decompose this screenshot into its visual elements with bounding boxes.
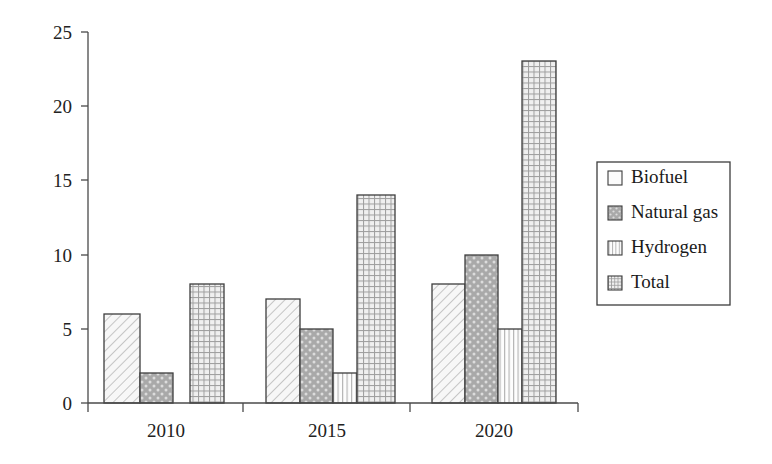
x-tick-label-2010: 2010: [147, 420, 185, 441]
legend-label-total: Total: [631, 271, 670, 292]
x-tick-label-2020: 2020: [475, 420, 513, 441]
bar-2010-biofuel: [104, 314, 140, 403]
bar-group-2020: [432, 61, 556, 403]
bar-2010-natural-gas: [140, 373, 173, 403]
y-tick-label-10: 10: [53, 245, 72, 266]
bar-2020-biofuel: [432, 284, 465, 403]
legend-swatch-natural-gas-icon: [608, 206, 622, 220]
bar-chart: 25 20 15 10 5 0: [0, 0, 772, 464]
chart-canvas: 25 20 15 10 5 0: [0, 0, 772, 464]
bar-2015-total: [357, 195, 395, 403]
bar-2020-natural-gas: [465, 255, 498, 403]
y-tick-label-25: 25: [53, 22, 72, 43]
legend-swatch-biofuel-icon: [608, 171, 622, 185]
bar-2015-biofuel: [266, 299, 300, 403]
legend-swatch-total-icon: [608, 276, 622, 290]
x-tick-label-2015: 2015: [308, 420, 346, 441]
legend-swatch-hydrogen-icon: [608, 241, 622, 255]
bar-group-2010: [104, 284, 224, 403]
bar-2015-natural-gas: [300, 329, 333, 403]
y-tick-label-5: 5: [63, 319, 73, 340]
bar-2020-hydrogen: [498, 329, 522, 403]
bar-2015-hydrogen: [333, 373, 357, 403]
y-axis: 25 20 15 10 5 0: [53, 22, 88, 414]
legend-label-hydrogen: Hydrogen: [631, 236, 707, 257]
chart-legend: Biofuel Natural gas Hydrogen Total: [597, 162, 730, 305]
y-tick-label-20: 20: [53, 96, 72, 117]
bar-2010-total: [190, 284, 224, 403]
bar-2020-total: [522, 61, 556, 403]
legend-label-natural-gas: Natural gas: [631, 201, 718, 222]
bar-group-2015: [266, 195, 395, 403]
y-tick-label-0: 0: [63, 393, 73, 414]
legend-label-biofuel: Biofuel: [631, 166, 688, 187]
x-axis: 2010 2015 2020: [88, 403, 578, 441]
y-tick-label-15: 15: [53, 170, 72, 191]
